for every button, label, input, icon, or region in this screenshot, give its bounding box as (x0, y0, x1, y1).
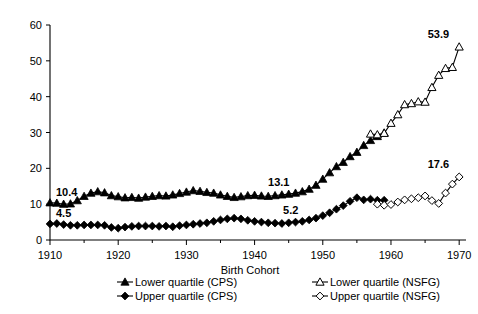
y-tick-label: 60 (30, 19, 42, 31)
legend-label: Upper quartile (NSFG) (330, 290, 440, 302)
chart-figure: 0102030405060191019201930194019501960197… (0, 0, 478, 314)
y-tick-label: 10 (30, 198, 42, 210)
x-axis-title: Birth Cohort (221, 264, 280, 276)
legend-item[interactable]: Lower quartile (NSFG) (312, 276, 440, 288)
y-tick-label: 50 (30, 55, 42, 67)
x-tick-label: 1950 (311, 249, 335, 261)
x-tick-label: 1960 (379, 249, 403, 261)
data-point-label: 13.1 (268, 176, 289, 188)
legend-label: Lower quartile (CPS) (135, 276, 237, 288)
x-tick-label: 1930 (174, 249, 198, 261)
x-tick-label: 1910 (38, 249, 62, 261)
data-point-label: 17.6 (428, 158, 449, 170)
x-tick-label: 1970 (447, 249, 471, 261)
data-point-label: 4.5 (56, 207, 71, 219)
legend-label: Lower quartile (NSFG) (330, 276, 440, 288)
y-tick-label: 0 (36, 234, 42, 246)
y-tick-label: 20 (30, 162, 42, 174)
legend-item[interactable]: Upper quartile (NSFG) (312, 290, 440, 302)
legend-item[interactable]: Lower quartile (CPS) (117, 276, 237, 288)
legend-label: Upper quartile (CPS) (135, 290, 237, 302)
data-point-label: 10.4 (56, 186, 78, 198)
data-point-label: 5.2 (283, 204, 298, 216)
y-tick-label: 40 (30, 91, 42, 103)
data-point-label: 53.9 (428, 28, 449, 40)
x-tick-label: 1920 (106, 249, 130, 261)
y-tick-label: 30 (30, 127, 42, 139)
legend-item[interactable]: Upper quartile (CPS) (117, 290, 237, 302)
x-tick-label: 1940 (242, 249, 266, 261)
